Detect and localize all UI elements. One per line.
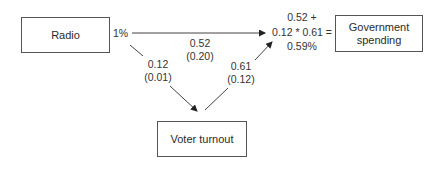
radio-label: Radio xyxy=(51,29,80,42)
direct-coef: 0.52 xyxy=(185,37,215,50)
total-effect-line3: 0.59% xyxy=(272,40,332,53)
radio-to-turnout-coef: 0.12 xyxy=(140,58,176,71)
radio-node: Radio xyxy=(21,17,110,53)
total-effect-line2: 0.12 * 0.61 = xyxy=(266,26,338,39)
radio-to-turnout-line-upper xyxy=(130,45,143,56)
turnout-to-spending-se: (0.12) xyxy=(223,73,259,86)
radio-to-turnout-arrow xyxy=(170,86,197,111)
turnout-to-spending-coef: 0.61 xyxy=(226,60,256,73)
government-spending-label: Government spending xyxy=(342,21,416,47)
total-effect-line1: 0.52 + xyxy=(272,11,332,24)
government-spending-node: Government spending xyxy=(335,15,423,52)
turnout-to-spending-arrow xyxy=(255,42,272,60)
voter-turnout-node: Voter turnout xyxy=(157,121,247,157)
radio-effect-label: 1% xyxy=(113,27,128,40)
radio-to-turnout-se: (0.01) xyxy=(139,71,177,84)
voter-turnout-label: Voter turnout xyxy=(171,133,234,146)
turnout-to-spending-line-lower xyxy=(205,88,228,110)
direct-se: (0.20) xyxy=(182,50,218,63)
